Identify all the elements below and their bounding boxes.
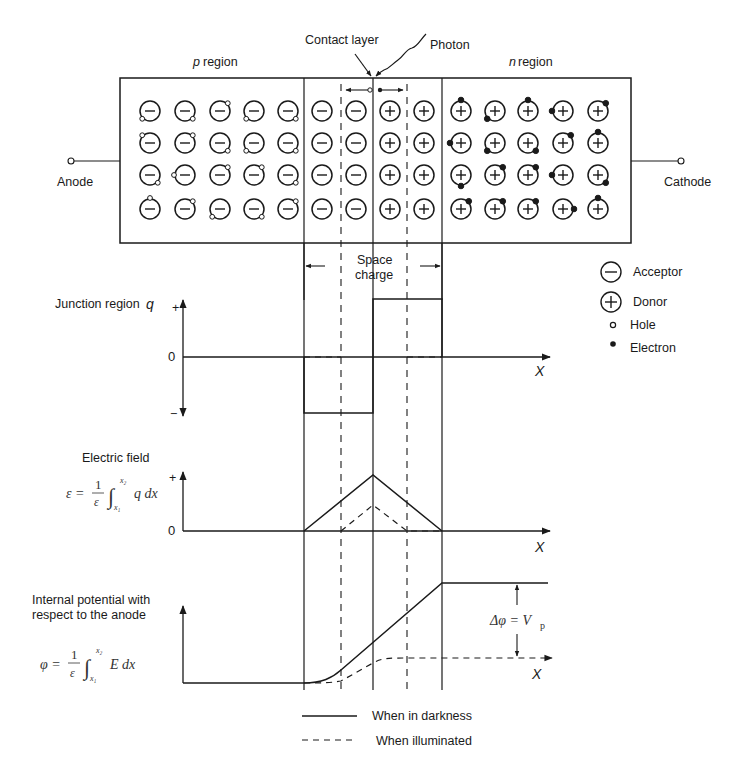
- svg-text:Internal potential with: Internal potential with: [32, 593, 150, 607]
- hole-icon: [210, 214, 215, 219]
- contact-layer-pointer: [355, 54, 371, 76]
- electron-icon: [500, 198, 506, 204]
- electron-icon: [466, 198, 472, 204]
- svg-text:x₂: x₂: [95, 646, 103, 655]
- anode-label: Anode: [57, 175, 93, 189]
- svg-text:1: 1: [95, 477, 102, 492]
- svg-text:1: 1: [71, 647, 78, 662]
- p-region-label: p region: [192, 55, 238, 69]
- electron-icon: [549, 108, 555, 114]
- hole-icon: [259, 165, 264, 170]
- cathode-label: Cathode: [664, 175, 711, 189]
- photon-wave-icon: [376, 34, 426, 76]
- svg-text:p: p: [192, 55, 200, 69]
- charge-plot: Junction region q + 0 − X: [55, 296, 550, 421]
- contact-layer-label: Contact layer: [305, 33, 379, 47]
- svg-text:region: region: [203, 55, 238, 69]
- hole-icon: [293, 180, 298, 185]
- hole-icon: [140, 133, 145, 138]
- electron-icon: [458, 97, 464, 103]
- hole-icon: [172, 173, 177, 178]
- electron-icon: [458, 183, 464, 189]
- hole-icon: [259, 214, 264, 219]
- svg-text:q: q: [146, 296, 154, 312]
- hole-icon: [225, 101, 230, 106]
- svg-text:ε: ε: [94, 495, 99, 509]
- svg-text:region: region: [518, 55, 553, 69]
- hole-icon: [190, 116, 195, 121]
- svg-text:X: X: [534, 363, 545, 379]
- electron-icon: [603, 100, 609, 106]
- svg-text:X: X: [534, 539, 545, 555]
- svg-text:When illuminated: When illuminated: [376, 734, 472, 748]
- svg-text:Junction region: Junction region: [55, 297, 140, 311]
- svg-text:Electron: Electron: [630, 341, 676, 355]
- electron-icon: [484, 116, 490, 122]
- svg-text:x₁: x₁: [113, 503, 121, 512]
- hole-legend-icon: [610, 322, 615, 327]
- svg-text:respect to the anode: respect to the anode: [32, 608, 146, 622]
- electron-icon: [525, 97, 531, 103]
- svg-text:+: +: [172, 301, 179, 315]
- potential-plot: Internal potential with respect to the a…: [32, 583, 552, 683]
- svg-text:Δφ = V: Δφ = V: [489, 613, 532, 628]
- hole-icon: [190, 133, 195, 138]
- cathode-terminal-icon: [678, 158, 684, 164]
- electron-icon: [378, 88, 382, 92]
- svg-text:n: n: [509, 55, 516, 69]
- svg-text:p: p: [540, 620, 545, 631]
- electron-icon: [595, 195, 601, 201]
- hole-icon: [244, 116, 249, 121]
- svg-text:E dx: E dx: [109, 657, 136, 672]
- electron-icon: [571, 206, 577, 212]
- svg-text:+: +: [169, 471, 176, 485]
- svg-text:φ =: φ =: [40, 657, 61, 672]
- hole-icon: [140, 116, 145, 121]
- electron-icon: [595, 129, 601, 135]
- svg-text:0: 0: [168, 523, 175, 538]
- space-charge-label-2: charge: [355, 268, 393, 282]
- electron-icon: [568, 132, 574, 138]
- svg-text:Hole: Hole: [630, 318, 656, 332]
- svg-text:0: 0: [168, 349, 175, 364]
- svg-text:When in darkness: When in darkness: [372, 709, 472, 723]
- photon-label: Photon: [430, 38, 470, 52]
- line-legend: When in darkness When illuminated: [302, 709, 472, 748]
- hole-icon: [155, 180, 160, 185]
- svg-text:X: X: [531, 666, 542, 682]
- svg-text:ε: ε: [70, 666, 75, 680]
- electron-icon: [533, 198, 539, 204]
- hole-icon: [190, 199, 195, 204]
- svg-text:−: −: [170, 407, 177, 421]
- electric-field-plot: Electric field ε = 1 ε ∫ x₂ x₁ q dx + 0 …: [66, 451, 550, 555]
- electron-icon: [533, 148, 539, 154]
- electron-icon: [549, 172, 555, 178]
- particle-legend: Acceptor Donor Hole Electron: [601, 262, 682, 355]
- hole-icon: [225, 148, 230, 153]
- space-charge-label-1: Space: [357, 253, 392, 267]
- electron-legend-icon: [610, 341, 616, 347]
- svg-text:x₂: x₂: [119, 476, 127, 485]
- charge-dark-curve: [304, 299, 442, 413]
- n-region-label: n region: [509, 55, 553, 69]
- svg-text:Acceptor: Acceptor: [633, 265, 682, 279]
- svg-text:q dx: q dx: [134, 486, 159, 501]
- hole-icon: [225, 165, 230, 170]
- hole-icon: [293, 116, 298, 121]
- svg-text:ε =: ε =: [66, 486, 84, 501]
- device-box: [120, 78, 631, 243]
- hole-icon: [293, 199, 298, 204]
- electron-icon: [533, 164, 539, 170]
- anode-terminal-icon: [68, 158, 74, 164]
- hole-icon: [368, 88, 372, 92]
- pn-junction-diagram: Contact layer Photon p region n region A…: [0, 0, 739, 770]
- electron-icon: [603, 180, 609, 186]
- electron-icon: [484, 148, 490, 154]
- svg-text:Electric field: Electric field: [82, 451, 149, 465]
- hole-icon: [244, 148, 249, 153]
- hole-icon: [148, 196, 153, 201]
- electron-icon: [447, 140, 453, 146]
- svg-text:Donor: Donor: [633, 295, 667, 309]
- ion-grid: [140, 97, 609, 219]
- svg-text:x₁: x₁: [89, 674, 97, 683]
